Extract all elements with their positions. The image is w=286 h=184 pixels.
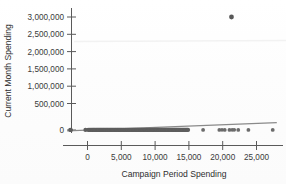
x-tick-label: 20,000 [210,153,235,162]
y-axis-title: Current Month Spending [3,24,13,118]
data-point [232,128,236,132]
y-tick-label: 2,500,000 [28,30,65,39]
plot-svg: 3,000,000 2,500,000 2,000,000 1,500,000 … [0,0,286,184]
data-point [201,128,205,132]
x-tick-label: 10,000 [143,153,168,162]
y-tick-label: 2,000,000 [28,48,65,57]
y-tick-label: 1,000,000 [28,82,65,91]
y-axis-tick-labels: 3,000,000 2,500,000 2,000,000 1,500,000 … [28,13,65,135]
x-tick-label: 5,000 [111,153,132,162]
data-point [223,128,227,132]
y-tick-label: 0 [59,126,64,135]
y-tick-label: 500,000 [34,100,64,109]
x-axis-title: Campaign Period Spending [121,169,226,179]
scan-artifact-line [74,41,286,42]
data-points-layer [68,15,274,132]
y-tick-label: 3,000,000 [28,13,65,22]
data-point [186,128,190,132]
data-point [246,128,250,132]
x-tick-label: 0 [85,153,90,162]
data-point-outlier [229,15,234,20]
y-tick-label: 1,500,000 [28,65,65,74]
data-point [271,128,275,132]
x-tick-label: 15,000 [176,153,201,162]
x-tick-label: 25,000 [244,153,269,162]
scatter-chart: 3,000,000 2,500,000 2,000,000 1,500,000 … [0,0,286,184]
data-point [236,128,240,132]
x-axis-tick-labels: 0 5,000 10,000 15,000 20,000 25,000 [85,153,269,162]
data-point [69,128,73,132]
